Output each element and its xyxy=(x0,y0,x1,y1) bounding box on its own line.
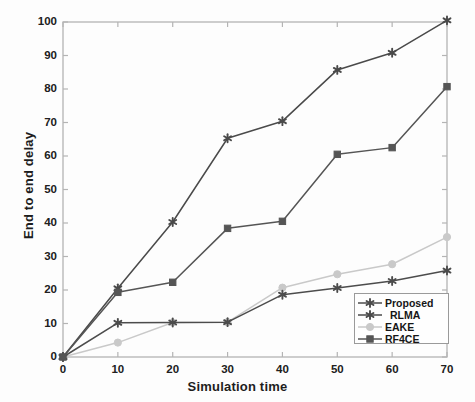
data-point xyxy=(115,289,121,295)
x-tick-label: 50 xyxy=(317,363,357,375)
legend-marker-icon xyxy=(355,297,385,309)
legend-item-rf4ce[interactable]: RF4CE xyxy=(355,333,450,345)
y-tick-label: 80 xyxy=(17,82,57,94)
legend-label: RF4CE xyxy=(385,333,419,345)
data-point xyxy=(443,233,450,240)
y-tick-label: 90 xyxy=(17,49,57,61)
data-point xyxy=(170,279,176,285)
data-point xyxy=(114,339,121,346)
y-tick-label: 50 xyxy=(17,183,57,195)
legend-marker-icon xyxy=(355,309,385,321)
y-tick-label: 40 xyxy=(17,216,57,228)
y-tick-label: 70 xyxy=(17,116,57,128)
chart-legend[interactable]: ProposedRLMAEAKERF4CE xyxy=(354,293,449,344)
legend-label: EAKE xyxy=(385,321,414,333)
y-tick-label: 10 xyxy=(17,317,57,329)
y-tick-label: 20 xyxy=(17,283,57,295)
chart-figure: Simulation time End to end delay 0102030… xyxy=(0,0,475,402)
legend-item-rlma[interactable]: RLMA xyxy=(355,309,450,321)
x-tick-label: 10 xyxy=(98,363,138,375)
x-axis-title: Simulation time xyxy=(0,379,475,394)
legend-marker-icon xyxy=(355,321,385,333)
legend-marker-icon xyxy=(355,333,385,345)
legend-label: Proposed xyxy=(385,297,433,309)
data-point xyxy=(389,144,395,150)
x-tick-label: 60 xyxy=(372,363,412,375)
data-point xyxy=(334,151,340,157)
legend-item-proposed[interactable]: Proposed xyxy=(355,297,450,309)
data-point xyxy=(60,354,66,360)
x-tick-label: 40 xyxy=(262,363,302,375)
data-point xyxy=(389,261,396,268)
data-point xyxy=(444,16,451,24)
legend-item-eake[interactable]: EAKE xyxy=(355,321,450,333)
y-tick-label: 60 xyxy=(17,149,57,161)
data-point xyxy=(224,225,230,231)
data-point xyxy=(334,271,341,278)
x-tick-label: 70 xyxy=(427,363,467,375)
data-point xyxy=(279,218,285,224)
legend-label: RLMA xyxy=(385,309,420,321)
x-tick-label: 20 xyxy=(153,363,193,375)
y-tick-label: 0 xyxy=(17,350,57,362)
x-tick-label: 0 xyxy=(43,363,83,375)
y-tick-label: 30 xyxy=(17,250,57,262)
x-tick-label: 30 xyxy=(208,363,248,375)
data-point xyxy=(444,83,450,89)
y-tick-label: 100 xyxy=(17,15,57,27)
